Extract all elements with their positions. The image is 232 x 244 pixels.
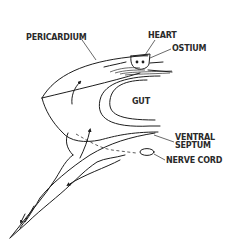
septum-pouch xyxy=(66,133,73,155)
leader-ventral-septum xyxy=(154,135,174,142)
circulation-diagram: PERICARDIUM HEART OSTIUM GUT VENTRAL SEP… xyxy=(0,0,232,244)
flow-arrow-pericardium xyxy=(72,82,80,104)
label-ventral-septum-2: SEPTUM xyxy=(175,141,211,150)
ventral-septum-line xyxy=(40,133,155,198)
diagram-canvas: PERICARDIUM HEART OSTIUM GUT VENTRAL SEP… xyxy=(0,0,232,244)
ostium-left xyxy=(136,61,139,64)
leader-nerve-cord xyxy=(154,154,165,160)
label-gut: GUT xyxy=(132,97,151,106)
abdomen-outline xyxy=(10,155,125,238)
gut xyxy=(99,76,160,126)
leader-heart xyxy=(145,40,155,55)
nerve-cord-shape xyxy=(140,149,154,156)
ostium-right xyxy=(142,61,145,64)
leader-ostium xyxy=(150,49,171,58)
ventral-septum-dashed xyxy=(76,134,136,153)
label-nerve-cord: NERVE CORD xyxy=(166,156,223,165)
label-heart: HEART xyxy=(148,31,177,40)
flow-arrow-septum xyxy=(80,130,90,158)
heart xyxy=(110,54,172,75)
pericardial-line xyxy=(104,62,126,67)
ventral-body-line xyxy=(62,132,158,141)
label-ostium: OSTIUM xyxy=(172,44,206,53)
pericardium-outline xyxy=(42,55,148,132)
label-pericardium: PERICARDIUM xyxy=(26,33,87,42)
